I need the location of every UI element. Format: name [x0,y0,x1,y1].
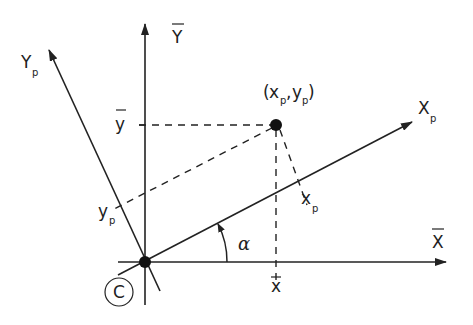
principal-x-axis [118,122,412,275]
principal-y-axis [49,50,160,291]
svg-text:,: , [286,82,291,102]
global-y-label: Y [171,27,183,47]
xp-subscript: p [312,203,318,214]
svg-text:y: y [292,82,302,102]
point-label: ( x p , y p ) [263,82,315,106]
origin-label: C [113,282,125,302]
coordinate-rotation-diagram: C Y X Y p X p ( x p , y p ) y x x p y p … [0,0,473,325]
y-bar-label: y [115,114,125,134]
svg-text:): ) [308,82,315,102]
yp-subscript: p [109,215,115,226]
origin-marker [139,256,151,268]
principal-x-label: X [418,98,430,118]
principal-y-subscript: p [32,67,38,78]
x-bar-label: x [271,276,281,296]
global-x-label: X [432,232,444,252]
yp-label: y [98,201,108,221]
projection-to-yp [112,128,272,210]
principal-x-subscript: p [430,113,436,124]
principal-y-label: Y [20,52,32,72]
xp-label: x [301,188,311,208]
angle-alpha-arc [218,224,227,262]
point-marker [270,119,282,131]
svg-text:x: x [269,82,279,102]
angle-alpha-label: α [238,233,250,254]
